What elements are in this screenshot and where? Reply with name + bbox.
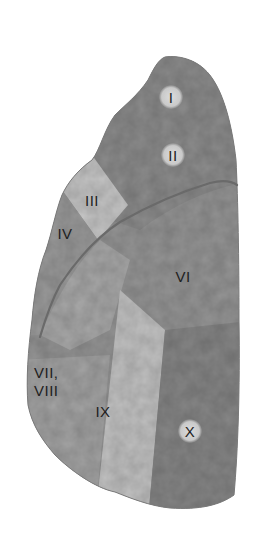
tissue-texture	[0, 0, 268, 557]
lung-illustration	[0, 0, 268, 557]
segment-label-X: X	[178, 419, 202, 443]
segment-label-VI: VI	[175, 269, 190, 284]
segment-label-VIII: VIII	[34, 382, 59, 400]
segment-label-VII-VIII: VII, VIII	[34, 364, 59, 400]
segment-label-VII: VII,	[34, 364, 59, 382]
segment-label-IX: IX	[95, 404, 110, 419]
segment-label-II: II	[161, 143, 185, 167]
lung-segment-diagram: I II III IV VI VII, VIII IX X	[0, 0, 268, 557]
segment-label-I: I	[159, 85, 183, 109]
segment-label-IV: IV	[57, 226, 72, 241]
segment-label-III: III	[85, 193, 99, 208]
